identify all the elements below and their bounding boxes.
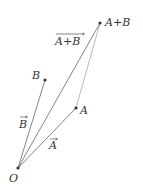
vector-diagram: O A B A+B A B A+B <box>0 0 143 195</box>
label-point-b: B <box>31 69 40 82</box>
label-vector-a-plus-b: A+B <box>54 35 80 48</box>
point-o <box>16 166 19 169</box>
point-a-plus-b <box>98 21 101 24</box>
label-point-o: O <box>9 172 18 185</box>
label-vector-a: A <box>48 139 57 152</box>
point-b <box>43 78 46 81</box>
label-point-a: A <box>79 104 88 117</box>
point-a <box>74 106 77 109</box>
label-vector-b: B <box>18 118 27 131</box>
label-point-a-plus-b: A+B <box>104 16 130 29</box>
